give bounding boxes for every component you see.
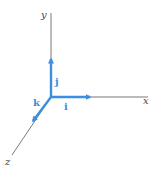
axes-canvas: y x z j i k [0, 0, 160, 170]
z-axis-label: z [4, 156, 11, 167]
coordinate-system-diagram: y x z j i k [0, 0, 160, 170]
i-vector-label: i [64, 101, 68, 112]
k-vector-label: k [33, 97, 41, 108]
y-axis-label: y [40, 9, 47, 20]
j-vector-label: j [54, 76, 59, 87]
x-axis-label: x [143, 95, 149, 106]
